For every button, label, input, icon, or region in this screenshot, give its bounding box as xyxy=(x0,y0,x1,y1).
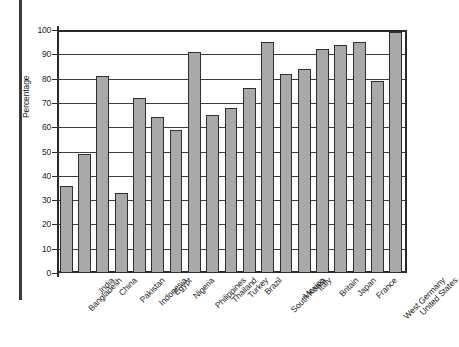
plot-area: 0102030405060708090100 xyxy=(57,30,405,273)
x-tick-label-britain: Britain xyxy=(337,276,360,299)
y-tick-label-100: 100 xyxy=(21,26,51,35)
bar-mexico xyxy=(280,74,293,273)
bar-philippines xyxy=(188,52,201,273)
y-tick-label-60: 60 xyxy=(21,123,51,132)
bar-france xyxy=(353,42,366,273)
bar-nigeria xyxy=(170,130,183,273)
bar-brazil xyxy=(243,88,256,273)
bar-thailand xyxy=(206,115,219,273)
y-tick-90 xyxy=(52,54,58,55)
y-tick-60 xyxy=(52,127,58,128)
y-tick-label-20: 20 xyxy=(21,220,51,229)
x-tick-label-france: France xyxy=(375,276,399,300)
y-tick-label-0: 0 xyxy=(21,269,51,278)
bar-japan xyxy=(334,45,347,273)
bar-egypt xyxy=(151,117,164,273)
bar-turkey xyxy=(225,108,238,273)
bar-india xyxy=(78,154,91,273)
bar-bangladesh xyxy=(60,186,73,273)
y-tick-30 xyxy=(52,200,58,201)
y-tick-0 xyxy=(52,273,58,274)
bar-pakistan xyxy=(115,193,128,273)
y-tick-80 xyxy=(52,79,58,80)
bar-south-korea xyxy=(261,42,274,273)
bar-china xyxy=(96,76,109,273)
plot-right-frame xyxy=(405,30,407,273)
y-tick-50 xyxy=(52,152,58,153)
bar-indonesia xyxy=(133,98,146,273)
x-tick-label-egypt: Egypt xyxy=(172,276,193,297)
x-tick-label-nigeria: Nigeria xyxy=(192,276,217,301)
y-tick-label-90: 90 xyxy=(21,50,51,59)
y-tick-label-30: 30 xyxy=(21,196,51,205)
y-tick-20 xyxy=(52,224,58,225)
gridline-100 xyxy=(57,30,405,32)
bar-britain xyxy=(316,49,329,273)
bar-west-germany xyxy=(371,81,384,273)
x-axis-labels-group: BangladeshIndiaChinaPakistanIndonesiaEgy… xyxy=(57,276,417,346)
y-tick-40 xyxy=(52,176,58,177)
y-tick-label-40: 40 xyxy=(21,172,51,181)
y-tick-70 xyxy=(52,103,58,104)
y-tick-label-10: 10 xyxy=(21,245,51,254)
y-tick-10 xyxy=(52,249,58,250)
y-tick-100 xyxy=(52,30,58,31)
y-tick-label-50: 50 xyxy=(21,148,51,157)
y-axis-label: Percentage xyxy=(22,76,31,118)
bar-italy xyxy=(298,69,311,273)
bar-united-states xyxy=(389,32,402,273)
